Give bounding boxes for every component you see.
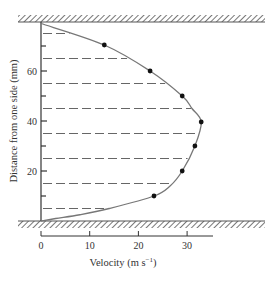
- y-axis: 204060: [27, 22, 47, 221]
- x-tick-label: 20: [133, 240, 143, 251]
- y-tick-label: 60: [27, 66, 37, 77]
- data-points: [102, 43, 204, 199]
- x-axis-label: Velocity (m s−1): [90, 256, 157, 269]
- data-point: [180, 169, 185, 174]
- velocity-profile-curve: [41, 24, 201, 222]
- data-point: [148, 69, 153, 74]
- y-axis-label: Distance from one side (mm): [8, 59, 20, 183]
- bottom-wall: [18, 221, 265, 228]
- y-ticks: 204060: [27, 46, 47, 196]
- data-point: [180, 94, 185, 99]
- top-wall-hatch: [18, 15, 265, 22]
- bottom-wall-hatch: [18, 221, 265, 228]
- data-point: [152, 194, 157, 199]
- x-ticks: 0102030: [39, 231, 193, 251]
- x-axis-label-main: Velocity (m s: [90, 257, 146, 269]
- x-axis: 0102030: [39, 231, 214, 251]
- x-tick-label: 10: [85, 240, 95, 251]
- data-point: [192, 144, 197, 149]
- top-wall: [18, 15, 265, 22]
- x-tick-label: 0: [39, 240, 44, 251]
- x-tick-label: 30: [182, 240, 192, 251]
- velocity-profile-chart: 204060 Distance from one side (mm) 01020…: [0, 0, 280, 281]
- data-point: [199, 120, 204, 125]
- y-tick-label: 20: [27, 166, 37, 177]
- y-tick-label: 40: [27, 116, 37, 127]
- data-point: [102, 43, 107, 48]
- x-axis-label-close: ): [153, 257, 157, 269]
